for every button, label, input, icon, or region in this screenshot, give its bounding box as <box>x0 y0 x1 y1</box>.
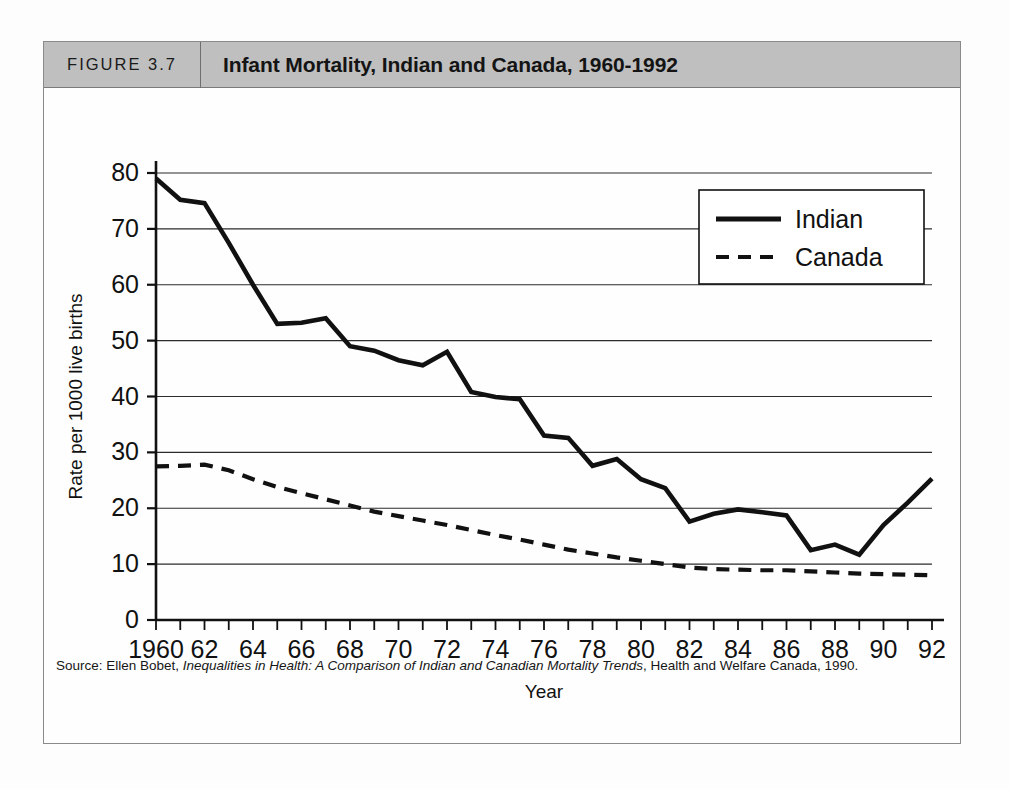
source-publication-title: Inequalities in Health: A Comparison of … <box>183 658 643 673</box>
y-tick-label: 60 <box>111 270 139 298</box>
figure-title: Infant Mortality, Indian and Canada, 196… <box>201 53 678 77</box>
chart-area: 01020304050607080 1960626466687072747678… <box>44 88 960 698</box>
y-tick-label: 20 <box>111 493 139 521</box>
y-axis-title: Rate per 1000 live births <box>65 294 86 500</box>
source-note: Source: Ellen Bobet, Inequalities in Hea… <box>56 656 946 677</box>
legend-label-canada: Canada <box>795 243 883 271</box>
page-root: FIGURE 3.7 Infant Mortality, Indian and … <box>0 0 1009 789</box>
x-axis-title: Year <box>525 681 564 698</box>
series-line-canada <box>156 465 932 576</box>
figure-header: FIGURE 3.7 Infant Mortality, Indian and … <box>44 42 960 88</box>
y-tick-label: 50 <box>111 326 139 354</box>
source-prefix: Source: Ellen Bobet, <box>56 658 183 673</box>
x-axis-ticks <box>156 620 932 630</box>
y-tick-label: 80 <box>111 158 139 186</box>
y-tick-label: 40 <box>111 382 139 410</box>
figure-number-label: FIGURE 3.7 <box>44 55 200 74</box>
y-tick-label: 30 <box>111 437 139 465</box>
figure-box: FIGURE 3.7 Infant Mortality, Indian and … <box>43 41 961 744</box>
y-tick-label: 0 <box>125 605 139 633</box>
legend-label-indian: Indian <box>795 205 863 233</box>
y-tick-label: 70 <box>111 214 139 242</box>
source-suffix: , Health and Welfare Canada, 1990. <box>643 658 858 673</box>
line-chart: 01020304050607080 1960626466687072747678… <box>44 88 960 698</box>
y-tick-label: 10 <box>111 549 139 577</box>
y-axis-tick-labels: 01020304050607080 <box>111 158 139 633</box>
y-axis-ticks <box>147 173 156 620</box>
chart-legend: IndianCanada <box>699 190 924 284</box>
